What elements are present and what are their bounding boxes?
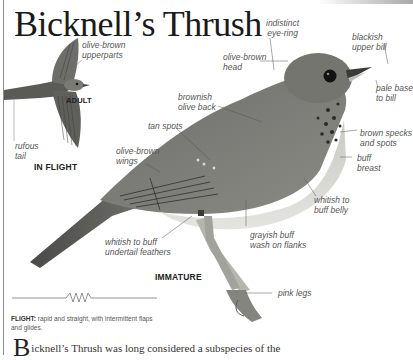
label-buff-breast: buffbreast <box>357 153 381 173</box>
flight-label: FLIGHT: <box>11 315 36 322</box>
drop-cap: B <box>13 333 30 360</box>
flying-bird-figure <box>4 38 90 148</box>
label-olive-brown-upperparts: olive-brownupperparts <box>82 40 125 60</box>
caption-adult: ADULT <box>66 96 92 105</box>
label-pink-legs: pink legs <box>278 288 312 298</box>
label-grayish-buff-wash-on-flanks: grayish buffwash on flanks <box>250 230 306 250</box>
body-text-line: icknell’s Thrush was long considered a s… <box>31 342 280 354</box>
flight-pattern-line <box>12 293 157 302</box>
label-rufous-tail: rufoustail <box>15 141 39 161</box>
label-indistinct-eye-ring: indistincteye-ring <box>266 18 299 38</box>
flight-description: FLIGHT: rapid and straight, with intermi… <box>11 314 161 332</box>
label-blackish-upper-bill: blackishupper bill <box>352 32 387 52</box>
caption-in-flight: IN FLIGHT <box>34 162 77 172</box>
label-pale-base-to-bill: pale baseto bill <box>376 83 413 103</box>
label-whitish-to-buff-belly: whitish tobuff belly <box>314 195 349 215</box>
body-paragraph: Bicknell’s Thrush was long considered a … <box>13 335 280 360</box>
label-brown-specks-and-spots: brown specksand spots <box>360 128 412 148</box>
label-brownish-olive-back: brownisholive back <box>178 92 216 112</box>
label-whitish-to-buff-undertail-feathers: whitish to buffundertail feathers <box>105 237 171 257</box>
caption-immature: IMMATURE <box>155 272 202 282</box>
label-olive-brown-head: olive-brownhead <box>223 52 266 72</box>
label-tan-spots: tan spots <box>148 121 183 131</box>
label-olive-brown-wings: olive-brownwings <box>116 146 159 166</box>
